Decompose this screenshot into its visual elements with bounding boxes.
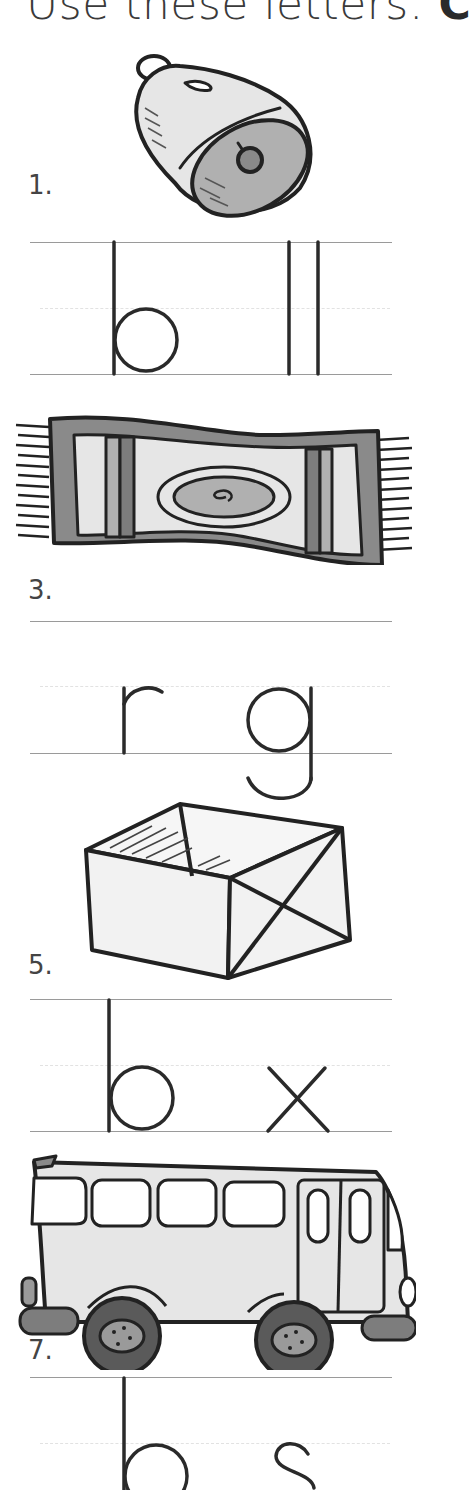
word-letters-box xyxy=(0,998,424,1138)
top-rule xyxy=(30,621,392,622)
bell-picture xyxy=(120,48,320,238)
word-letters-bell xyxy=(0,240,424,380)
letter-bank: C xyxy=(439,0,471,29)
instructions-heading: Use these letters: C xyxy=(26,0,471,29)
bus-picture xyxy=(16,1150,416,1370)
rug-picture xyxy=(14,405,414,565)
item-number: 7. xyxy=(28,1335,53,1365)
word-letters-rug xyxy=(0,680,424,800)
box-picture xyxy=(80,798,360,988)
item-number: 1. xyxy=(28,170,53,200)
word-letters-bus xyxy=(0,1376,424,1490)
instructions-text: Use these letters: xyxy=(26,0,424,29)
item-number: 3. xyxy=(28,575,53,605)
item-number: 5. xyxy=(28,950,53,980)
